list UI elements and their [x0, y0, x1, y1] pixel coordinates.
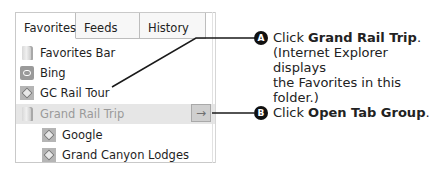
callout-b-bold: Open Tab Group: [308, 105, 425, 120]
callout-a-text: Click Grand Rail Trip. (Internet Explore…: [273, 30, 437, 105]
callout-badge-b: B: [254, 106, 268, 120]
callout-a-line2: (Internet Explorer displays: [273, 45, 388, 75]
callout-b-suffix: .: [425, 105, 429, 120]
callout-badge-a: A: [254, 31, 268, 45]
callout-a-suffix: .: [417, 30, 421, 45]
callout-line-a: [112, 38, 255, 87]
callout-a-prefix: Click: [273, 30, 308, 45]
callout-b-text: Click Open Tab Group.: [273, 105, 430, 120]
callout-b-prefix: Click: [273, 105, 308, 120]
callout-a-line3: the Favorites in this folder.): [273, 75, 401, 105]
callout-a-bold: Grand Rail Trip: [308, 30, 417, 45]
